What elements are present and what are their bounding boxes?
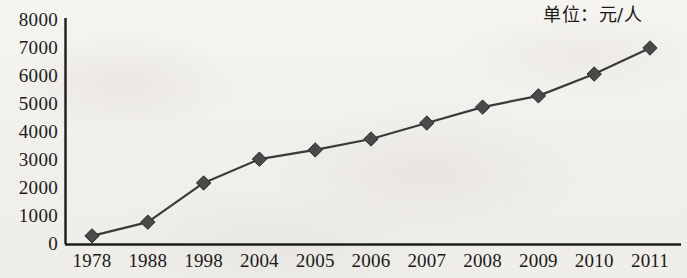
data-point-marker bbox=[141, 215, 155, 229]
data-point-marker bbox=[308, 143, 322, 157]
data-point-marker bbox=[85, 229, 99, 243]
data-point-marker bbox=[420, 116, 434, 130]
chart-plot-area bbox=[0, 0, 687, 278]
chart-axes bbox=[65, 18, 681, 245]
line-chart-figure: 单位：元/人 010002000300040005000600070008000… bbox=[0, 0, 687, 278]
data-point-marker bbox=[643, 41, 657, 55]
data-point-marker bbox=[252, 152, 266, 166]
data-point-marker bbox=[196, 176, 210, 190]
data-point-marker bbox=[475, 100, 489, 114]
data-point-marker bbox=[364, 132, 378, 146]
data-point-marker bbox=[531, 89, 545, 103]
data-point-markers bbox=[85, 41, 657, 243]
data-point-marker bbox=[587, 67, 601, 81]
